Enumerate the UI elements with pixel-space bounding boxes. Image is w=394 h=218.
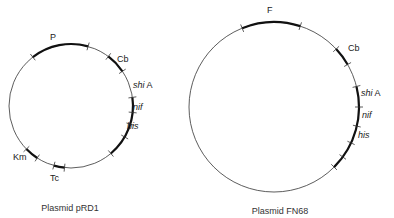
- gene-label-shia: shi A: [133, 81, 153, 90]
- gene-label-his: his: [127, 122, 139, 131]
- gene-region-arc: [54, 166, 65, 168]
- boundary-tick: [128, 97, 136, 98]
- gene-label-shia: shi A: [361, 89, 381, 98]
- gene-region-arc: [242, 22, 300, 28]
- gene-label-cb: Cb: [348, 44, 360, 53]
- gene-label-tc: Tc: [50, 174, 59, 183]
- plasmid-maps-diagram: [0, 0, 394, 218]
- gene-label-km: Km: [13, 153, 27, 162]
- plasmid-caption-pRD1: Plasmid pRD1: [41, 203, 99, 213]
- gene-region-arc: [26, 149, 37, 158]
- boundary-tick: [129, 112, 137, 113]
- gene-region-arc: [334, 86, 359, 167]
- gene-label-nif: nif: [133, 103, 143, 112]
- gene-region-arc: [336, 49, 347, 64]
- gene-label-nif: nif: [362, 111, 372, 120]
- plasmid-map-FN68: [189, 22, 363, 192]
- gene-region-arc: [33, 44, 88, 57]
- boundary-tick: [64, 164, 65, 172]
- gene-label-p: P: [50, 33, 56, 42]
- gene-label-f: F: [267, 6, 273, 15]
- gene-label-his: his: [358, 131, 370, 140]
- gene-label-cb: Cb: [117, 55, 129, 64]
- plasmid-caption-FN68: Plasmid FN68: [252, 206, 309, 216]
